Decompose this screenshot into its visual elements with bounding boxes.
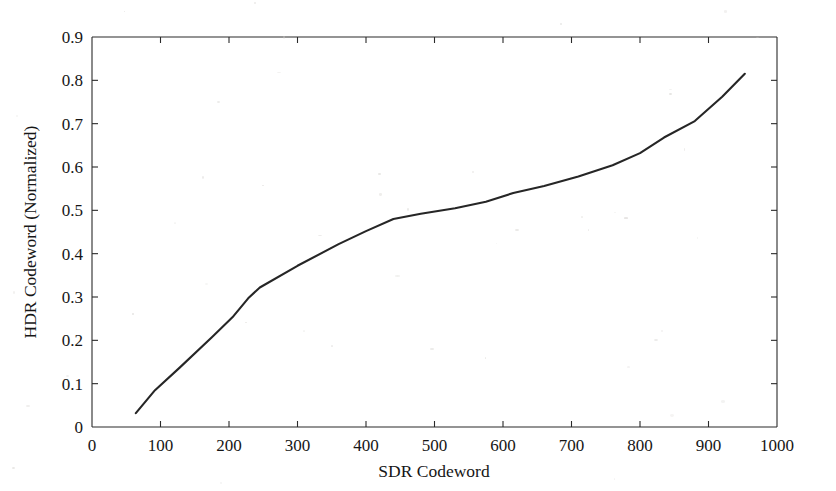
x-axis-ticks-top xyxy=(161,37,709,43)
y-axis-tick-labels: 00.10.20.30.40.50.60.70.80.9 xyxy=(62,28,84,437)
y-tick-label: 0.2 xyxy=(62,331,83,350)
y-tick-label: 0.6 xyxy=(62,158,83,177)
chart-figure: 01002003004005006007008009001000 00.10.2… xyxy=(0,0,836,491)
x-axis-ticks xyxy=(161,421,709,427)
y-tick-label: 0.8 xyxy=(62,71,83,90)
y-tick-label: 0.3 xyxy=(62,288,83,307)
y-tick-label: 0.9 xyxy=(62,28,83,47)
x-tick-label: 200 xyxy=(216,436,242,455)
y-tick-label: 0.4 xyxy=(62,245,84,264)
x-tick-label: 1000 xyxy=(760,436,794,455)
x-axis-title: SDR Codeword xyxy=(378,461,490,481)
line-chart-svg: 01002003004005006007008009001000 00.10.2… xyxy=(0,0,836,491)
y-tick-label: 0 xyxy=(75,418,84,437)
y-axis-ticks xyxy=(92,80,98,383)
y-tick-label: 0.7 xyxy=(62,115,84,134)
x-tick-label: 500 xyxy=(422,436,448,455)
x-tick-label: 0 xyxy=(88,436,97,455)
x-tick-label: 600 xyxy=(490,436,516,455)
y-axis-title: HDR Codeword (Normalized) xyxy=(20,125,40,338)
y-tick-label: 0.5 xyxy=(62,201,83,220)
x-tick-label: 900 xyxy=(696,436,722,455)
x-tick-label: 100 xyxy=(148,436,174,455)
x-tick-label: 700 xyxy=(559,436,585,455)
plot-axes xyxy=(92,37,777,427)
x-axis-tick-labels: 01002003004005006007008009001000 xyxy=(88,436,794,455)
x-tick-label: 800 xyxy=(627,436,653,455)
data-series-line xyxy=(136,74,745,413)
x-tick-label: 400 xyxy=(353,436,379,455)
y-tick-label: 0.1 xyxy=(62,375,83,394)
y-axis-ticks-right xyxy=(771,80,777,383)
x-tick-label: 300 xyxy=(285,436,311,455)
